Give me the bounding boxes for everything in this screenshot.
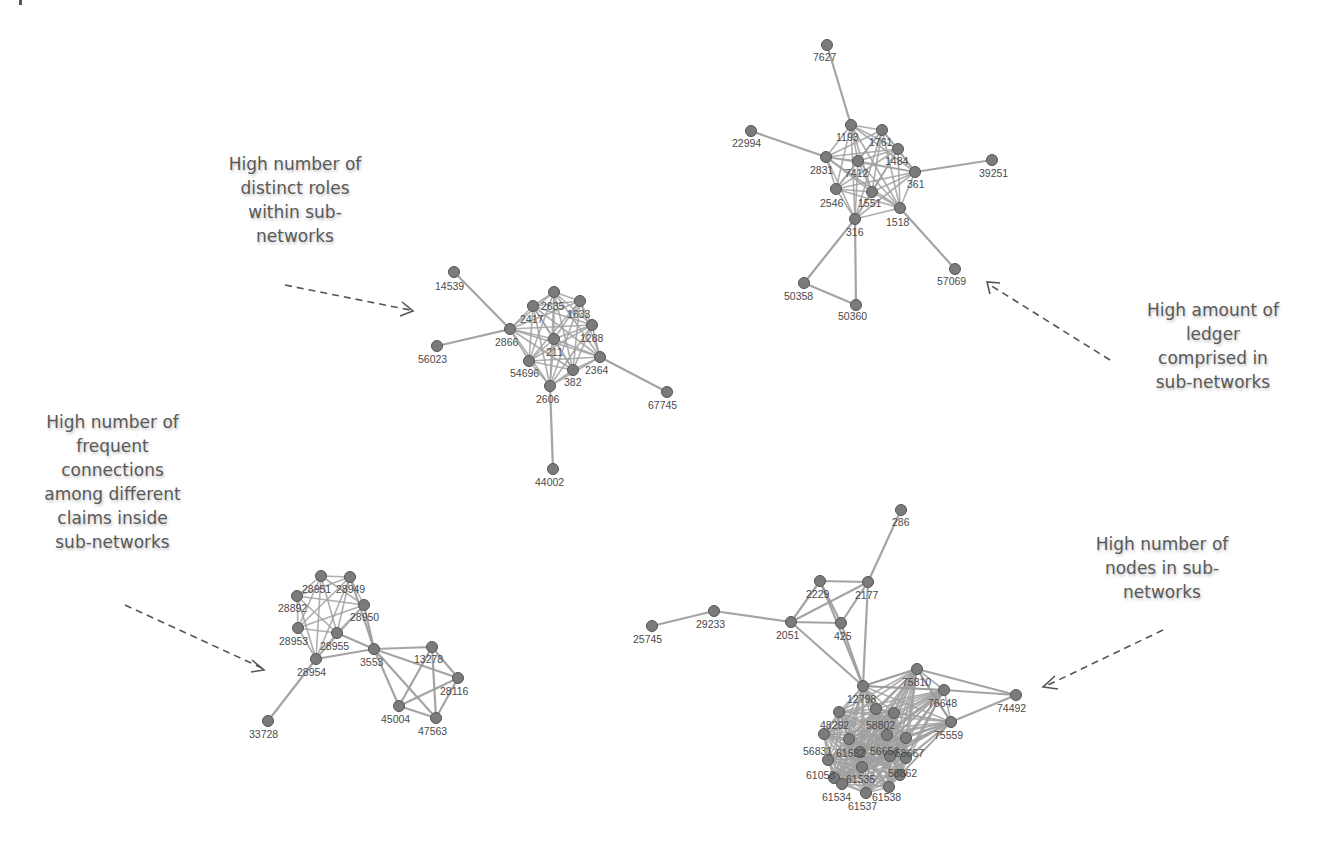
graph-node[interactable] (946, 717, 957, 728)
node-label: 7627 (813, 51, 837, 63)
graph-node[interactable] (394, 701, 405, 712)
graph-node[interactable] (263, 716, 274, 727)
graph-node[interactable] (863, 577, 874, 588)
graph-node[interactable] (851, 300, 862, 311)
graph-node[interactable] (332, 628, 343, 639)
annotation-line: sub-networks (25, 530, 200, 554)
graph-node[interactable] (867, 187, 878, 198)
graph-node[interactable] (853, 156, 864, 167)
node-label: 211 (546, 346, 563, 358)
node-label: 1518 (886, 216, 910, 228)
node-label: 74492 (997, 702, 1026, 714)
node-label: 2546 (820, 197, 844, 209)
graph-node[interactable] (901, 733, 912, 744)
node-label: 13278 (414, 653, 443, 665)
graph-node[interactable] (662, 387, 673, 398)
graph-node[interactable] (821, 152, 832, 163)
node-label: 75810 (902, 676, 931, 688)
graph-node[interactable] (844, 734, 855, 745)
graph-node[interactable] (834, 707, 845, 718)
graph-node[interactable] (877, 125, 888, 136)
graph-node[interactable] (910, 167, 921, 178)
node-label: 29233 (696, 618, 725, 630)
annotation-ledger-amount: High amount of ledger comprised in sub-n… (1118, 298, 1308, 394)
graph-node[interactable] (709, 606, 720, 617)
graph-node[interactable] (595, 352, 606, 363)
graph-node[interactable] (549, 287, 560, 298)
graph-node[interactable] (548, 464, 559, 475)
graph-node[interactable] (815, 576, 826, 587)
graph-node[interactable] (836, 618, 847, 629)
graph-node[interactable] (896, 505, 907, 516)
graph-node[interactable] (786, 617, 797, 628)
graph-node[interactable] (369, 644, 380, 655)
node-label: 7412 (845, 167, 869, 179)
graph-node[interactable] (882, 730, 893, 741)
graph-node[interactable] (799, 278, 810, 289)
annotation-node-count: High number of nodes in sub- networks (1072, 532, 1252, 604)
graph-node[interactable] (524, 356, 535, 367)
annotation-line: nodes in sub- (1072, 556, 1252, 580)
graph-node[interactable] (746, 126, 757, 137)
annotation-line: networks (195, 224, 395, 248)
graph-node[interactable] (545, 381, 556, 392)
graph-node[interactable] (316, 571, 327, 582)
node-label: 286 (892, 516, 910, 528)
graph-node[interactable] (1011, 690, 1022, 701)
graph-node[interactable] (311, 654, 322, 665)
graph-node[interactable] (359, 600, 370, 611)
node-label: 58862 (888, 767, 917, 779)
graph-node[interactable] (889, 708, 900, 719)
graph-node[interactable] (893, 144, 904, 155)
graph-node[interactable] (427, 642, 438, 653)
graph-node[interactable] (831, 184, 842, 195)
annotation-line: High amount of (1118, 298, 1308, 322)
graph-node[interactable] (505, 324, 516, 335)
annotation-line: distinct roles (195, 176, 395, 200)
graph-node[interactable] (647, 621, 658, 632)
annotation-line: among different (25, 482, 200, 506)
graph-node[interactable] (822, 40, 833, 51)
graph-node[interactable] (895, 203, 906, 214)
graph-node[interactable] (939, 685, 950, 696)
graph-node[interactable] (987, 155, 998, 166)
graph-node[interactable] (549, 334, 560, 345)
annotation-line: frequent (25, 434, 200, 458)
graph-node[interactable] (575, 296, 586, 307)
graph-node[interactable] (846, 120, 857, 131)
annotation-line: ledger (1118, 322, 1308, 346)
graph-node[interactable] (345, 572, 356, 583)
graph-node[interactable] (850, 214, 861, 225)
node-label: 56023 (418, 353, 447, 365)
node-label: 1551 (858, 197, 882, 209)
graph-node[interactable] (528, 301, 539, 312)
graph-node[interactable] (432, 341, 443, 352)
node-label: 14539 (435, 280, 464, 292)
node-label: 61535 (846, 773, 875, 785)
node-label: 3553 (360, 656, 384, 668)
node-label: 56831 (803, 745, 832, 757)
node-label: 28949 (336, 583, 365, 595)
graph-node[interactable] (858, 681, 869, 692)
graph-node[interactable] (449, 267, 460, 278)
graph-node[interactable] (293, 623, 304, 634)
graph-node[interactable] (857, 762, 868, 773)
node-label: 12798 (847, 693, 876, 705)
graph-node[interactable] (568, 365, 579, 376)
arrow-distinct-roles (285, 285, 410, 310)
annotation-frequent-connections: High number of frequent connections amon… (25, 410, 200, 554)
graph-node[interactable] (861, 788, 872, 799)
graph-node[interactable] (431, 713, 442, 724)
graph-node[interactable] (292, 591, 303, 602)
graph-node[interactable] (871, 704, 882, 715)
graph-node[interactable] (587, 320, 598, 331)
node-label: 28892 (278, 602, 307, 614)
graph-node[interactable] (950, 264, 961, 275)
node-label: 22994 (732, 137, 761, 149)
graph-node[interactable] (453, 673, 464, 684)
arrow-node-count (1048, 630, 1163, 685)
node-label: 76648 (928, 697, 957, 709)
graph-node[interactable] (912, 664, 923, 675)
edge (374, 647, 432, 649)
node-label: 58667 (895, 747, 924, 759)
